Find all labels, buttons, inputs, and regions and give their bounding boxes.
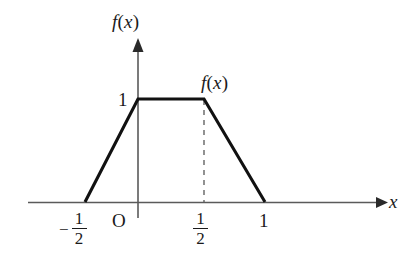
y-axis-label-var: x (124, 11, 133, 32)
function-curve (85, 99, 265, 202)
fraction-numerator: 1 (73, 210, 86, 228)
x-axis-arrowhead (376, 197, 388, 208)
minus-sign: − (59, 220, 69, 240)
figure-root: f(x) f(x) 1 O − 1 2 1 2 1 x (0, 0, 415, 277)
y-axis-arrowhead (133, 38, 144, 52)
fraction-half: 1 2 (193, 210, 208, 248)
curve-label-var: x (213, 72, 222, 93)
curve-label-close: ) (222, 72, 229, 93)
curve-label: f(x) (201, 73, 228, 92)
x-axis (28, 197, 388, 208)
fraction-denominator: 2 (73, 229, 86, 247)
fraction-denominator: 2 (194, 229, 207, 247)
y-axis-label-close: ) (133, 11, 140, 32)
x-tick-label-1: 1 (259, 211, 269, 230)
origin-label: O (112, 211, 126, 230)
y-tick-label-1: 1 (118, 90, 128, 109)
y-axis (133, 38, 144, 218)
fraction-neg-half: 1 2 (72, 210, 87, 248)
x-tick-label-half: 1 2 (193, 210, 208, 248)
x-tick-label-neg-half: − 1 2 (59, 210, 87, 248)
fraction-numerator: 1 (194, 210, 207, 228)
y-axis-label: f(x) (112, 12, 139, 31)
x-axis-label: x (389, 192, 397, 211)
